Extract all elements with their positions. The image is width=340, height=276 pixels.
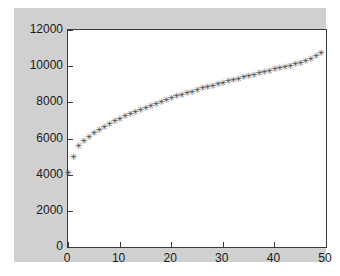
y-axis-tick-label: 2000 (36, 203, 63, 217)
x-axis-tick-label: 20 (164, 251, 177, 265)
data-point-marker: ✳ (116, 116, 123, 123)
data-point-marker: ✳ (250, 72, 257, 79)
data-point-marker: ✳ (183, 90, 190, 97)
data-point-marker: ✳ (168, 95, 175, 102)
x-axis-tick-labels: 01020304050 (67, 251, 327, 269)
data-point-marker: ✳ (132, 109, 139, 116)
data-point-marker: ✳ (276, 65, 283, 72)
data-point-marker: ✳ (90, 130, 97, 137)
data-point-marker: ✳ (230, 77, 237, 84)
data-point-marker: ✳ (245, 73, 252, 80)
data-point-marker: ✳ (214, 81, 221, 88)
y-axis-tick-label: 10000 (30, 58, 63, 72)
data-point-marker: ✳ (147, 103, 154, 110)
data-point-marker: ✳ (204, 84, 211, 91)
y-axis-tick (68, 247, 73, 248)
data-point-marker: ✳ (281, 64, 288, 71)
data-point-marker: ✳ (142, 105, 149, 112)
data-point-marker: ✳ (157, 99, 164, 106)
data-point-marker: ✳ (302, 58, 309, 65)
data-point-marker: ✳ (219, 80, 226, 87)
x-axis-tick-label: 50 (318, 251, 331, 265)
y-axis-tick-label: 0 (56, 239, 63, 253)
data-point-marker: ✳ (188, 89, 195, 96)
x-axis-tick-label: 40 (267, 251, 280, 265)
plot-axes[interactable]: ✳✳✳✳✳✳✳✳✳✳✳✳✳✳✳✳✳✳✳✳✳✳✳✳✳✳✳✳✳✳✳✳✳✳✳✳✳✳✳✳… (67, 29, 327, 248)
data-point-marker: ✳ (199, 85, 206, 92)
data-point-marker: ✳ (85, 134, 92, 141)
data-point-marker: ✳ (255, 70, 262, 77)
x-axis-tick (68, 242, 69, 247)
y-axis-tick (68, 30, 73, 31)
y-axis-tick-label: 8000 (36, 94, 63, 108)
data-point-marker: ✳ (152, 101, 159, 108)
y-axis-tick-label: 12000 (30, 22, 63, 36)
data-point-marker: ✳ (75, 143, 82, 150)
y-axis-tick (68, 66, 73, 67)
data-point-marker: ✳ (163, 97, 170, 104)
y-axis-tick (68, 139, 73, 140)
x-axis-tick (171, 242, 172, 247)
y-axis-tick-label: 4000 (36, 167, 63, 181)
data-point-marker: ✳ (101, 124, 108, 131)
data-point-marker: ✳ (126, 111, 133, 118)
figure-canvas: 020004000600080001000012000 ✳✳✳✳✳✳✳✳✳✳✳✳… (14, 8, 326, 262)
y-axis-tick (68, 175, 73, 176)
y-axis-tick (68, 102, 73, 103)
figure-window: 020004000600080001000012000 ✳✳✳✳✳✳✳✳✳✳✳✳… (0, 0, 340, 276)
data-point-marker: ✳ (266, 68, 273, 75)
data-point-marker: ✳ (178, 92, 185, 99)
x-axis-tick (120, 242, 121, 247)
x-axis-tick (274, 242, 275, 247)
x-axis-tick-label: 0 (64, 251, 71, 265)
y-axis-tick (68, 211, 73, 212)
data-point-marker: ✳ (95, 127, 102, 134)
x-axis-tick-label: 10 (112, 251, 125, 265)
plot-data-area: ✳✳✳✳✳✳✳✳✳✳✳✳✳✳✳✳✳✳✳✳✳✳✳✳✳✳✳✳✳✳✳✳✳✳✳✳✳✳✳✳… (68, 30, 326, 247)
y-axis-tick-labels: 020004000600080001000012000 (14, 29, 63, 248)
data-point-marker: ✳ (111, 118, 118, 125)
data-point-marker: ✳ (209, 83, 216, 90)
y-axis-tick-label: 6000 (36, 131, 63, 145)
data-point-marker: ✳ (80, 138, 87, 145)
data-point-marker: ✳ (194, 87, 201, 94)
data-point-marker: ✳ (312, 53, 319, 60)
data-point-marker: ✳ (121, 113, 128, 120)
data-point-marker: ✳ (173, 93, 180, 100)
data-point-marker: ✳ (137, 107, 144, 114)
data-point-marker: ✳ (292, 61, 299, 68)
data-point-marker: ✳ (317, 50, 324, 57)
x-axis-tick (223, 242, 224, 247)
data-point-marker: ✳ (261, 69, 268, 76)
data-point-marker: ✳ (307, 56, 314, 63)
data-point-marker: ✳ (271, 66, 278, 73)
x-axis-tick-label: 30 (215, 251, 228, 265)
x-axis-tick (326, 242, 327, 247)
data-point-marker: ✳ (235, 76, 242, 83)
data-point-marker: ✳ (70, 154, 77, 161)
data-point-marker: ✳ (106, 121, 113, 128)
data-point-marker: ✳ (297, 60, 304, 67)
data-point-marker: ✳ (286, 63, 293, 70)
data-point-marker: ✳ (224, 78, 231, 85)
data-point-marker: ✳ (240, 74, 247, 81)
